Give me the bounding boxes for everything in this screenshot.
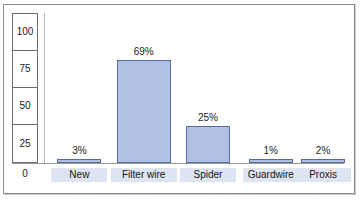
bar-value-label: 69% <box>103 47 185 57</box>
bar-group: 25% <box>186 13 230 163</box>
y-axis-tick-label: 100 <box>13 27 37 37</box>
bar-value-label: 25% <box>172 113 244 123</box>
bar-group: 69% <box>117 13 171 163</box>
plot-area: 3%69%25%1%2% <box>45 13 344 163</box>
bar[interactable] <box>57 159 101 163</box>
x-axis-category-label: New <box>51 168 107 182</box>
y-axis-tick-cell: 50 <box>13 88 37 125</box>
bar[interactable] <box>186 126 230 163</box>
bar-value-label: 2% <box>287 146 359 156</box>
y-axis-tick-cell: 75 <box>13 51 37 88</box>
x-axis-baseline <box>12 163 344 164</box>
bar-group: 2% <box>301 13 345 163</box>
y-axis-tick-label: 75 <box>13 64 37 74</box>
y-axis-tick-cell: 25 <box>13 125 37 162</box>
bar-value-label: 3% <box>43 146 115 156</box>
bar[interactable] <box>301 159 345 163</box>
x-axis-category-label: Filter wire <box>111 168 177 182</box>
x-axis-category-label: Guardwire <box>243 168 299 182</box>
bar[interactable] <box>117 60 171 163</box>
y-axis-tick-label: 25 <box>13 139 37 149</box>
bar[interactable] <box>249 159 293 163</box>
x-axis-category-label: Spider <box>180 168 236 182</box>
y-axis-tick-cell: 100 <box>13 14 37 51</box>
y-axis-tick-label: 50 <box>13 101 37 111</box>
y-axis-label-column: 100 75 50 25 <box>12 13 38 163</box>
x-axis-label-row: NewFilter wireSpiderGuardwireProxis <box>45 168 344 184</box>
y-axis-zero-label: 0 <box>12 168 38 179</box>
x-axis-category-label: Proxis <box>295 168 351 182</box>
bar-group: 3% <box>57 13 101 163</box>
bar-chart: 100 75 50 25 0 3%69%25%1%2% NewFilter wi… <box>0 0 360 201</box>
bar-group: 1% <box>249 13 293 163</box>
